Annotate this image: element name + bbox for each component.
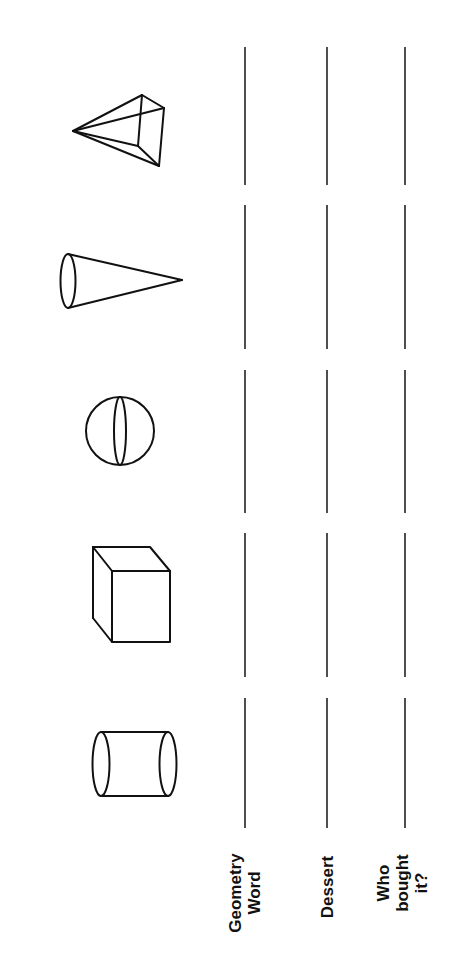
row-label-dessert: Dessert: [318, 856, 337, 918]
cylinder-icon: [93, 732, 177, 796]
row-label-line: Dessert: [318, 856, 337, 918]
row-label-geometry-word: Geometry Word: [226, 853, 264, 932]
row-label-who-bought-it: Who bought it?: [374, 854, 431, 912]
row-label-line: bought: [393, 854, 412, 912]
pyramid-icon: [73, 95, 164, 166]
sphere-icon: [86, 397, 154, 465]
row-label-line: Word: [245, 853, 264, 932]
row-label-line: Geometry: [226, 853, 245, 932]
cube-icon: [93, 547, 170, 642]
cone-icon: [61, 254, 183, 308]
row-label-line: it?: [412, 854, 431, 912]
row-label-line: Who: [374, 854, 393, 912]
worksheet-drawing: [0, 0, 454, 956]
worksheet-page: Geometry Word Dessert Who bought it?: [0, 0, 454, 956]
